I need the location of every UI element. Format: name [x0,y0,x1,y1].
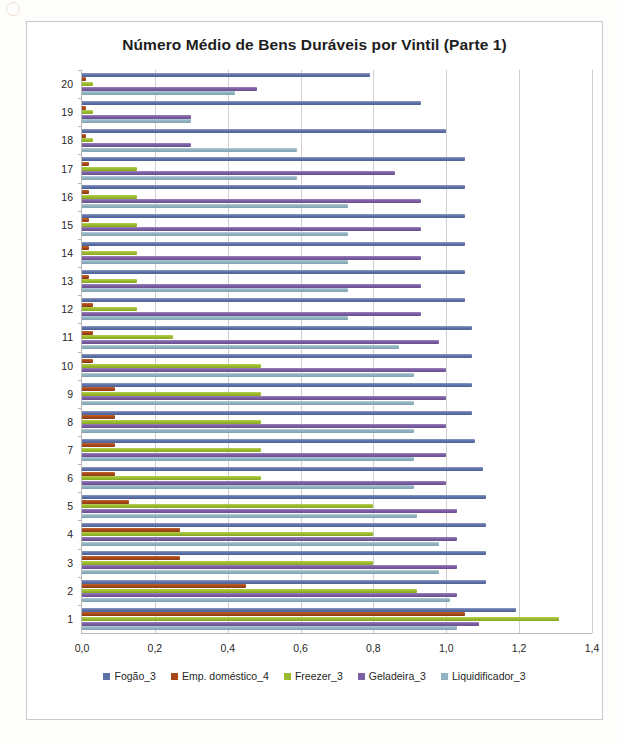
bar-fog-o-3[interactable] [82,608,516,612]
bar-emp-dom-stico-4[interactable] [82,162,89,166]
bar-fog-o-3[interactable] [82,73,370,77]
bar-emp-dom-stico-4[interactable] [82,612,465,616]
bar-freezer-3[interactable] [82,307,137,311]
bar-geladeira-3[interactable] [82,368,446,372]
bar-emp-dom-stico-4[interactable] [82,584,246,588]
bar-liquidificador-3[interactable] [82,232,348,236]
legend-item-liquidificador-3[interactable]: Liquidificador_3 [441,670,526,682]
bar-geladeira-3[interactable] [82,256,421,260]
bar-liquidificador-3[interactable] [82,401,414,405]
bar-geladeira-3[interactable] [82,481,446,485]
bar-fog-o-3[interactable] [82,580,486,584]
bar-freezer-3[interactable] [82,335,173,339]
bar-fog-o-3[interactable] [82,411,472,415]
bar-liquidificador-3[interactable] [82,457,414,461]
bar-emp-dom-stico-4[interactable] [82,359,93,363]
bar-geladeira-3[interactable] [82,396,446,400]
bar-fog-o-3[interactable] [82,439,475,443]
bar-emp-dom-stico-4[interactable] [82,218,89,222]
bar-freezer-3[interactable] [82,279,137,283]
bar-geladeira-3[interactable] [82,199,421,203]
bar-emp-dom-stico-4[interactable] [82,106,86,110]
bar-liquidificador-3[interactable] [82,288,348,292]
bar-emp-dom-stico-4[interactable] [82,443,115,447]
bar-fog-o-3[interactable] [82,129,446,133]
bar-fog-o-3[interactable] [82,185,465,189]
bar-geladeira-3[interactable] [82,424,446,428]
bar-geladeira-3[interactable] [82,171,395,175]
bar-emp-dom-stico-4[interactable] [82,190,89,194]
bar-freezer-3[interactable] [82,110,93,114]
bar-geladeira-3[interactable] [82,537,457,541]
bar-liquidificador-3[interactable] [82,598,450,602]
bar-freezer-3[interactable] [82,589,417,593]
bar-freezer-3[interactable] [82,504,373,508]
bar-liquidificador-3[interactable] [82,119,191,123]
bar-fog-o-3[interactable] [82,214,465,218]
bar-fog-o-3[interactable] [82,270,465,274]
bar-liquidificador-3[interactable] [82,373,414,377]
bar-liquidificador-3[interactable] [82,91,235,95]
bar-emp-dom-stico-4[interactable] [82,77,86,81]
bar-liquidificador-3[interactable] [82,514,417,518]
bar-fog-o-3[interactable] [82,523,486,527]
bar-geladeira-3[interactable] [82,340,439,344]
bar-freezer-3[interactable] [82,251,137,255]
bar-freezer-3[interactable] [82,195,137,199]
bar-geladeira-3[interactable] [82,312,421,316]
bar-freezer-3[interactable] [82,561,373,565]
bar-fog-o-3[interactable] [82,326,472,330]
bar-geladeira-3[interactable] [82,593,457,597]
bar-fog-o-3[interactable] [82,467,483,471]
bar-geladeira-3[interactable] [82,87,257,91]
bar-geladeira-3[interactable] [82,622,479,626]
bar-geladeira-3[interactable] [82,227,421,231]
bar-emp-dom-stico-4[interactable] [82,472,115,476]
bar-freezer-3[interactable] [82,364,261,368]
bar-emp-dom-stico-4[interactable] [82,246,89,250]
bar-emp-dom-stico-4[interactable] [82,500,129,504]
bar-freezer-3[interactable] [82,167,137,171]
bar-emp-dom-stico-4[interactable] [82,303,93,307]
bar-liquidificador-3[interactable] [82,148,297,152]
bar-fog-o-3[interactable] [82,157,465,161]
bar-emp-dom-stico-4[interactable] [82,331,93,335]
bar-freezer-3[interactable] [82,420,261,424]
bar-liquidificador-3[interactable] [82,260,348,264]
bar-geladeira-3[interactable] [82,509,457,513]
bar-fog-o-3[interactable] [82,354,472,358]
bar-fog-o-3[interactable] [82,101,421,105]
bar-liquidificador-3[interactable] [82,485,414,489]
bar-fog-o-3[interactable] [82,495,486,499]
bar-geladeira-3[interactable] [82,143,191,147]
bar-liquidificador-3[interactable] [82,626,457,630]
bar-geladeira-3[interactable] [82,565,457,569]
bar-fog-o-3[interactable] [82,242,465,246]
bar-liquidificador-3[interactable] [82,316,348,320]
bar-freezer-3[interactable] [82,223,137,227]
legend-item-freezer-3[interactable]: Freezer_3 [284,670,343,682]
bar-emp-dom-stico-4[interactable] [82,387,115,391]
bar-emp-dom-stico-4[interactable] [82,134,86,138]
bar-geladeira-3[interactable] [82,284,421,288]
bar-emp-dom-stico-4[interactable] [82,556,180,560]
bar-liquidificador-3[interactable] [82,570,439,574]
bar-freezer-3[interactable] [82,476,261,480]
bar-geladeira-3[interactable] [82,115,191,119]
bar-emp-dom-stico-4[interactable] [82,528,180,532]
bar-emp-dom-stico-4[interactable] [82,415,115,419]
legend-item-geladeira-3[interactable]: Geladeira_3 [358,670,426,682]
bar-geladeira-3[interactable] [82,453,446,457]
bar-fog-o-3[interactable] [82,551,486,555]
bar-liquidificador-3[interactable] [82,429,414,433]
bar-freezer-3[interactable] [82,448,261,452]
bar-freezer-3[interactable] [82,138,93,142]
bar-freezer-3[interactable] [82,392,261,396]
bar-liquidificador-3[interactable] [82,542,439,546]
bar-liquidificador-3[interactable] [82,176,297,180]
legend-item-emp-dom-stico-4[interactable]: Emp. doméstico_4 [171,670,269,682]
bar-fog-o-3[interactable] [82,298,465,302]
bar-fog-o-3[interactable] [82,383,472,387]
bar-liquidificador-3[interactable] [82,345,399,349]
legend-item-fog-o-3[interactable]: Fogão_3 [103,670,155,682]
